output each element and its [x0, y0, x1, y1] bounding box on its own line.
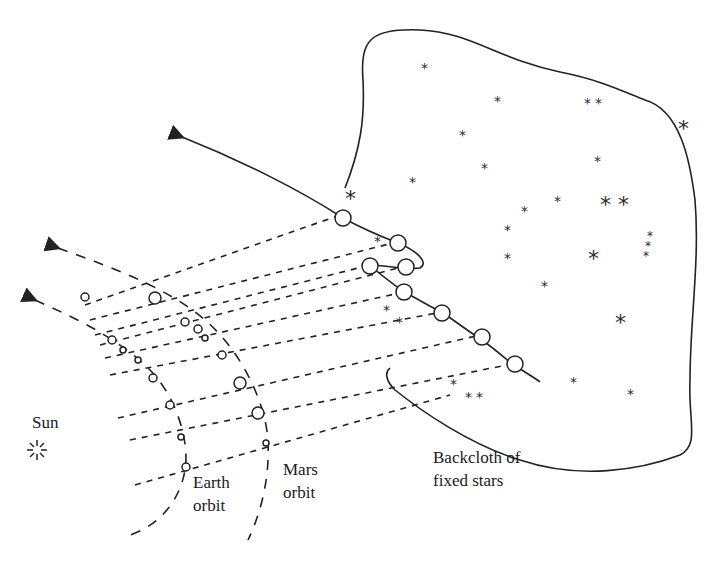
star-icon: * — [421, 60, 428, 76]
earth-orbit-label: Earth — [193, 473, 230, 492]
star-icon: * — [627, 386, 634, 402]
sight-lines — [85, 215, 512, 485]
star-icon: * — [459, 127, 466, 143]
star-icon: * — [678, 116, 689, 141]
mars-orbit-label-2: orbit — [283, 483, 315, 502]
star-icon: * — [504, 250, 511, 266]
backcloth-label: Backcloth of — [433, 448, 521, 467]
mars-positions — [149, 292, 269, 446]
star-icon: * — [600, 192, 611, 217]
star-icon: * — [615, 310, 626, 335]
star-icon: * — [345, 186, 356, 211]
star-icon: * — [541, 278, 548, 294]
star-icon: * — [584, 95, 591, 111]
star-icon: * — [554, 193, 561, 209]
star-icon: * — [481, 160, 488, 176]
star-icon: * — [396, 314, 403, 330]
star-icon: * — [494, 93, 501, 109]
earth-orbit-label-2: orbit — [193, 496, 225, 515]
mars-orbit — [58, 248, 268, 540]
star-icon: * — [594, 153, 601, 169]
star-icon: * — [588, 246, 599, 271]
star-icon: * — [570, 374, 577, 390]
fixed-stars: * * * * * * * * * * * * * * * * * * * * … — [345, 60, 689, 405]
star-icon: * — [521, 203, 528, 219]
apparent-positions — [335, 210, 523, 372]
sun-burst-icon — [27, 440, 47, 460]
star-icon: * — [409, 174, 416, 190]
star-icon: * — [383, 302, 390, 318]
sun-label: Sun — [32, 413, 59, 432]
star-icon: * — [465, 389, 472, 405]
star-icon: * — [476, 389, 483, 405]
retrograde-motion-diagram: * * * * * * * * * * * * * * * * * * * * … — [0, 0, 719, 566]
star-icon: * — [618, 192, 629, 217]
star-icon: * — [374, 233, 381, 249]
star-icon: * — [504, 222, 511, 238]
backcloth-label-2: fixed stars — [433, 471, 503, 490]
star-icon: * — [595, 95, 602, 111]
star-icon: * — [643, 249, 649, 263]
mars-orbit-label: Mars — [283, 460, 318, 479]
star-icon: * — [450, 376, 457, 392]
earth-positions — [81, 293, 190, 471]
